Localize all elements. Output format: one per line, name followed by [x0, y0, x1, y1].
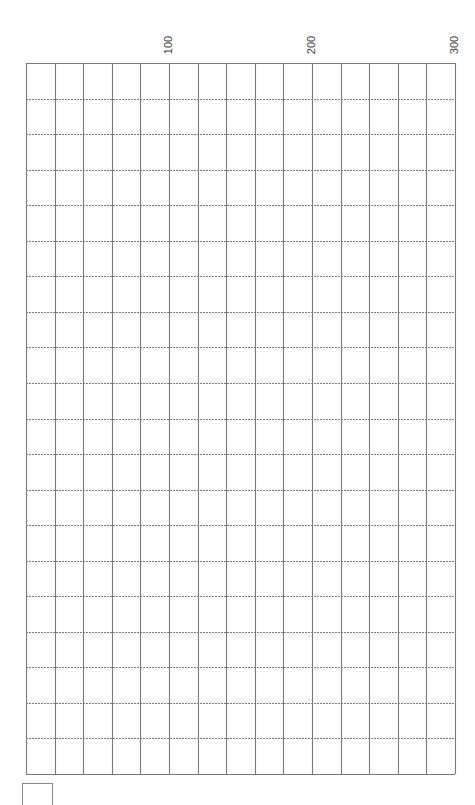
x-tick-label-100: 100: [161, 30, 175, 60]
corner-marker-box: [22, 783, 53, 805]
x-tick-label-200: 200: [304, 30, 318, 60]
x-tick-label-300: 300: [447, 30, 461, 60]
